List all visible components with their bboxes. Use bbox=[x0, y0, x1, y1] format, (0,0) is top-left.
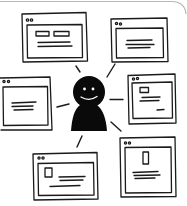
window-dot-icon bbox=[42, 157, 44, 159]
browser-window-top-right bbox=[111, 18, 168, 62]
window-dot-icon bbox=[38, 157, 40, 159]
window-dot-icon bbox=[128, 142, 130, 144]
browser-window-bottom-right bbox=[120, 137, 176, 197]
image-placeholder bbox=[140, 88, 149, 93]
window-dot-icon bbox=[115, 22, 117, 24]
browser-window-right bbox=[128, 74, 176, 124]
person-head bbox=[73, 76, 105, 108]
window-dot-icon bbox=[119, 23, 121, 25]
window-dot-icon bbox=[132, 78, 134, 80]
eye-icon bbox=[83, 88, 86, 91]
window-dot-icon bbox=[26, 19, 28, 21]
ray-bottom-left bbox=[77, 136, 82, 147]
image-placeholder bbox=[45, 168, 52, 177]
button-placeholder bbox=[36, 32, 49, 37]
ray-top-left bbox=[76, 66, 80, 72]
window-dot-icon bbox=[124, 142, 126, 144]
ray-left bbox=[57, 104, 69, 107]
eye-icon bbox=[92, 88, 95, 91]
browser-window-left bbox=[0, 77, 52, 130]
browser-window-bottom-left bbox=[33, 153, 98, 201]
person-figure bbox=[71, 76, 107, 131]
window-dot-icon bbox=[3, 80, 5, 82]
window-dot-icon bbox=[30, 19, 32, 21]
ray-top-right bbox=[107, 64, 115, 77]
ray-bottom-right bbox=[111, 122, 121, 131]
browser-window-top-left bbox=[22, 13, 88, 63]
window-dot-icon bbox=[136, 77, 138, 79]
illustration-canvas bbox=[0, 0, 187, 206]
person-body bbox=[71, 105, 107, 131]
window-dot-icon bbox=[7, 80, 9, 82]
button-placeholder bbox=[54, 32, 69, 37]
frame-border bbox=[0, 2, 186, 15]
image-placeholder bbox=[143, 152, 149, 164]
